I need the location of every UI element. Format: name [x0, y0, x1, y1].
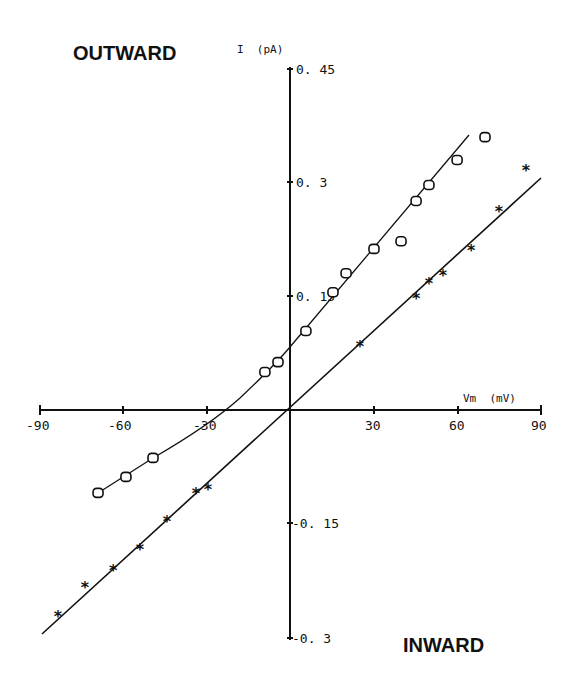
y-tick-label: -0. 3	[292, 631, 331, 646]
iv-chart: -90 -60 -30 30 60 90 0. 45 0. 3 0. 15 -0…	[0, 0, 580, 694]
circle-data-point	[301, 326, 311, 335]
circle-fit-curve	[98, 135, 469, 493]
circle-data-point	[480, 133, 490, 142]
star-data-point: *	[412, 289, 421, 308]
x-tick-label: -90	[26, 418, 49, 433]
star-data-point: *	[356, 337, 365, 356]
circle-data-point	[148, 453, 158, 462]
circle-data-point	[341, 269, 351, 278]
star-series: **************	[54, 161, 531, 626]
y-axis	[287, 67, 293, 640]
star-data-point: *	[136, 540, 145, 559]
x-tick-label: 30	[365, 418, 381, 433]
y-tick-label: 0. 3	[296, 175, 327, 190]
star-data-point: *	[81, 578, 90, 597]
y-tick-label: 0. 45	[296, 62, 335, 77]
y-axis-title: I (pA)	[237, 43, 283, 56]
circle-data-point	[396, 237, 406, 246]
star-data-point: *	[439, 266, 448, 285]
star-data-point: *	[495, 202, 504, 221]
star-data-point: *	[522, 161, 531, 180]
circle-data-point	[411, 197, 421, 206]
circle-data-point	[452, 155, 462, 164]
inward-label: INWARD	[403, 634, 484, 656]
circle-data-point	[260, 368, 270, 377]
x-tick-label: 90	[531, 418, 547, 433]
star-data-point: *	[109, 561, 118, 580]
circle-data-point	[93, 488, 103, 497]
circle-data-point	[273, 358, 283, 367]
star-data-point: *	[425, 274, 434, 293]
x-tick-label: -60	[108, 418, 131, 433]
star-data-point: *	[467, 241, 476, 260]
outward-label: OUTWARD	[73, 42, 176, 64]
circle-data-point	[424, 181, 434, 190]
circle-data-point	[121, 472, 131, 481]
star-data-point: *	[54, 607, 63, 626]
x-tick-label: 60	[449, 418, 465, 433]
star-data-point: *	[192, 484, 201, 503]
star-data-point: *	[204, 480, 213, 499]
star-data-point: *	[163, 512, 172, 531]
circle-data-point	[369, 244, 379, 253]
y-tick-label: -0. 15	[292, 516, 339, 531]
circle-series	[93, 133, 490, 498]
circle-data-point	[328, 288, 338, 297]
x-axis-title: Vm (mV)	[463, 392, 516, 405]
